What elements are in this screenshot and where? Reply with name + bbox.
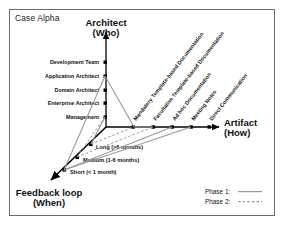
y-label-management: Management (66, 114, 99, 120)
legend-label-phase-1: Phase 1: (205, 188, 230, 195)
x-tick-direct-communication (208, 125, 211, 128)
x-label-direct-communication: Direct Communication (208, 73, 248, 122)
y-tick-enterprise-architect (104, 102, 107, 105)
y-tick-domain-architect (104, 89, 107, 92)
y-axis-ticks: Development Team Application Architect D… (45, 59, 107, 120)
legend: Phase 1: Phase 2: (205, 188, 262, 205)
legend-label-phase-2: Phase 2: (205, 198, 230, 205)
y-tick-development-team (104, 61, 107, 64)
three-axis-plot: Architect (Who) Artifact (How) Feedback … (0, 0, 285, 226)
z-axis-title-line2: (When) (33, 197, 65, 208)
phase1-path-a (105, 76, 134, 127)
z-label-short: Short (< 1 month) (70, 169, 117, 175)
y-label-enterprise-architect: Enterprise Architect (48, 100, 100, 106)
x-axis-diagonal-labels: Mandatory Template-based Documentation F… (132, 30, 248, 121)
y-label-development-team: Development Team (50, 59, 99, 65)
y-label-domain-architect: Domain Architect (55, 87, 100, 93)
y-axis-title-line2: (Who) (93, 27, 120, 38)
figure-root: Case Alpha Architect (Who) Artifact (How… (0, 0, 285, 226)
series-phase-2 (77, 117, 153, 157)
x-axis-title-line2: (How) (224, 127, 250, 138)
x-label-mandatory: Mandatory Template-based Documentation (132, 31, 205, 121)
y-label-application-architect: Application Architect (45, 73, 99, 79)
